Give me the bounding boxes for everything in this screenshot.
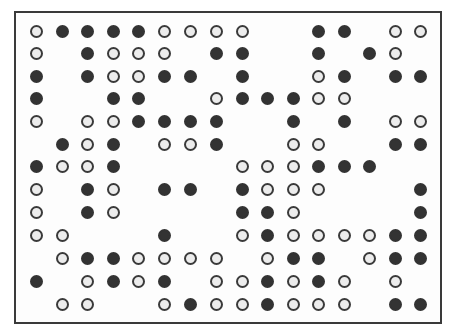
open-circle-icon [287, 275, 300, 288]
open-circle-icon [81, 160, 94, 173]
filled-circle-icon [236, 70, 249, 83]
filled-circle-icon [287, 92, 300, 105]
filled-circle-icon [107, 252, 120, 265]
filled-circle-icon [30, 92, 43, 105]
open-circle-icon [158, 298, 171, 311]
open-circle-icon [56, 252, 69, 265]
open-circle-icon [132, 275, 145, 288]
open-circle-icon [312, 298, 325, 311]
open-circle-icon [312, 183, 325, 196]
open-circle-icon [287, 206, 300, 219]
filled-circle-icon [312, 47, 325, 60]
filled-circle-icon [236, 183, 249, 196]
open-circle-icon [261, 183, 274, 196]
open-circle-icon [158, 252, 171, 265]
filled-circle-icon [389, 252, 402, 265]
open-circle-icon [158, 138, 171, 151]
open-circle-icon [338, 229, 351, 242]
filled-circle-icon [107, 138, 120, 151]
open-circle-icon [261, 160, 274, 173]
filled-circle-icon [107, 160, 120, 173]
open-circle-icon [363, 229, 376, 242]
filled-circle-icon [30, 275, 43, 288]
filled-circle-icon [389, 70, 402, 83]
filled-circle-icon [414, 252, 427, 265]
filled-circle-icon [312, 252, 325, 265]
open-circle-icon [107, 70, 120, 83]
open-circle-icon [210, 92, 223, 105]
filled-circle-icon [107, 92, 120, 105]
open-circle-icon [389, 115, 402, 128]
open-circle-icon [30, 115, 43, 128]
open-circle-icon [107, 206, 120, 219]
filled-circle-icon [184, 183, 197, 196]
open-circle-icon [312, 70, 325, 83]
open-circle-icon [210, 25, 223, 38]
filled-circle-icon [261, 206, 274, 219]
filled-circle-icon [158, 70, 171, 83]
filled-circle-icon [210, 138, 223, 151]
filled-circle-icon [132, 115, 145, 128]
filled-circle-icon [414, 138, 427, 151]
filled-circle-icon [184, 70, 197, 83]
filled-circle-icon [236, 206, 249, 219]
filled-circle-icon [338, 115, 351, 128]
open-circle-icon [287, 183, 300, 196]
open-circle-icon [81, 298, 94, 311]
filled-circle-icon [158, 115, 171, 128]
open-circle-icon [30, 206, 43, 219]
filled-circle-icon [287, 115, 300, 128]
open-circle-icon [30, 25, 43, 38]
open-circle-icon [389, 47, 402, 60]
filled-circle-icon [81, 25, 94, 38]
open-circle-icon [287, 229, 300, 242]
filled-circle-icon [132, 92, 145, 105]
open-circle-icon [107, 183, 120, 196]
filled-circle-icon [312, 25, 325, 38]
filled-circle-icon [210, 115, 223, 128]
open-circle-icon [210, 275, 223, 288]
open-circle-icon [56, 229, 69, 242]
open-circle-icon [210, 298, 223, 311]
open-circle-icon [81, 275, 94, 288]
open-circle-icon [158, 47, 171, 60]
open-circle-icon [56, 160, 69, 173]
open-circle-icon [132, 252, 145, 265]
open-circle-icon [389, 275, 402, 288]
open-circle-icon [236, 25, 249, 38]
filled-circle-icon [287, 252, 300, 265]
filled-circle-icon [107, 275, 120, 288]
filled-circle-icon [338, 70, 351, 83]
filled-circle-icon [414, 298, 427, 311]
filled-circle-icon [30, 160, 43, 173]
open-circle-icon [132, 47, 145, 60]
filled-circle-icon [81, 70, 94, 83]
filled-circle-icon [158, 229, 171, 242]
open-circle-icon [210, 252, 223, 265]
open-circle-icon [107, 115, 120, 128]
filled-circle-icon [414, 183, 427, 196]
filled-circle-icon [56, 25, 69, 38]
open-circle-icon [363, 252, 376, 265]
open-circle-icon [30, 47, 43, 60]
filled-circle-icon [30, 70, 43, 83]
filled-circle-icon [158, 275, 171, 288]
open-circle-icon [312, 138, 325, 151]
filled-circle-icon [236, 92, 249, 105]
open-circle-icon [236, 275, 249, 288]
open-circle-icon [81, 138, 94, 151]
filled-circle-icon [81, 183, 94, 196]
open-circle-icon [184, 252, 197, 265]
filled-circle-icon [158, 183, 171, 196]
filled-circle-icon [363, 160, 376, 173]
open-circle-icon [236, 160, 249, 173]
open-circle-icon [56, 298, 69, 311]
open-circle-icon [132, 70, 145, 83]
open-circle-icon [338, 275, 351, 288]
open-circle-icon [287, 160, 300, 173]
open-circle-icon [158, 25, 171, 38]
open-circle-icon [261, 252, 274, 265]
open-circle-icon [338, 298, 351, 311]
filled-circle-icon [389, 298, 402, 311]
filled-circle-icon [414, 70, 427, 83]
